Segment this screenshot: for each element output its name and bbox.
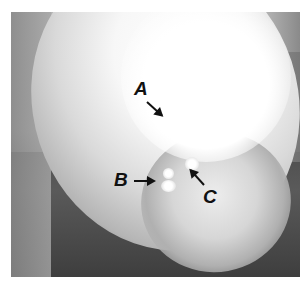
label-b: B	[114, 170, 128, 189]
label-c: C	[203, 187, 217, 206]
radiograph-image	[11, 12, 300, 277]
radiopaque-dot-b-lower	[161, 180, 176, 192]
arrow-b	[134, 180, 154, 182]
label-a: A	[134, 79, 148, 98]
radiopaque-dot-b-upper	[163, 168, 174, 179]
